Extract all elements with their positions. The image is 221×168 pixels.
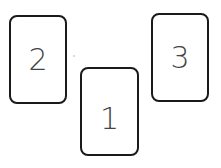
card-1-label: 1	[100, 87, 119, 136]
card-2[interactable]: 2	[9, 15, 67, 104]
card-3[interactable]: 3	[151, 13, 209, 102]
card-1[interactable]: 1	[80, 67, 139, 156]
card-3-label: 3	[170, 40, 189, 75]
card-2-label: 2	[28, 42, 47, 77]
speck	[73, 55, 75, 57]
